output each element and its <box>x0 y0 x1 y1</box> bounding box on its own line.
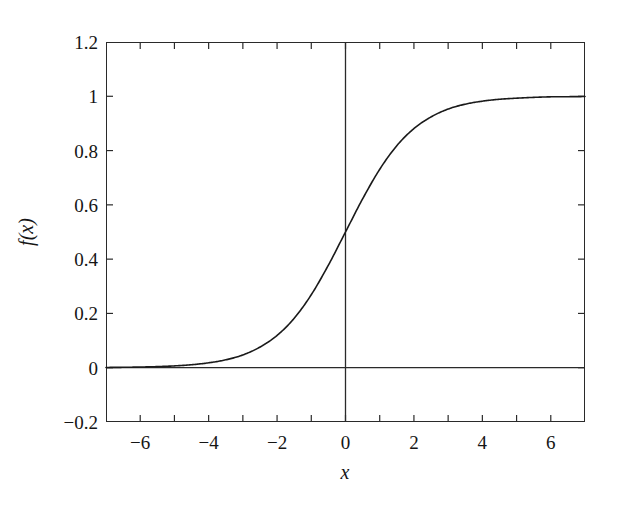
y-axis-title: f(x) <box>16 218 36 246</box>
x-tick-label: 2 <box>409 433 419 452</box>
x-axis-tick-labels: −6−4−20246 <box>0 0 619 509</box>
x-tick-label: 6 <box>546 433 556 452</box>
x-tick-label: 4 <box>478 433 488 452</box>
chart-figure: 1.210.80.60.40.20−0.2 −6−4−20246 x f(x) <box>0 0 619 509</box>
x-tick-label: −6 <box>130 433 150 452</box>
x-tick-label: −2 <box>267 433 287 452</box>
x-axis-title: x <box>341 462 350 482</box>
x-tick-label: −4 <box>199 433 219 452</box>
x-tick-label: 0 <box>341 433 351 452</box>
